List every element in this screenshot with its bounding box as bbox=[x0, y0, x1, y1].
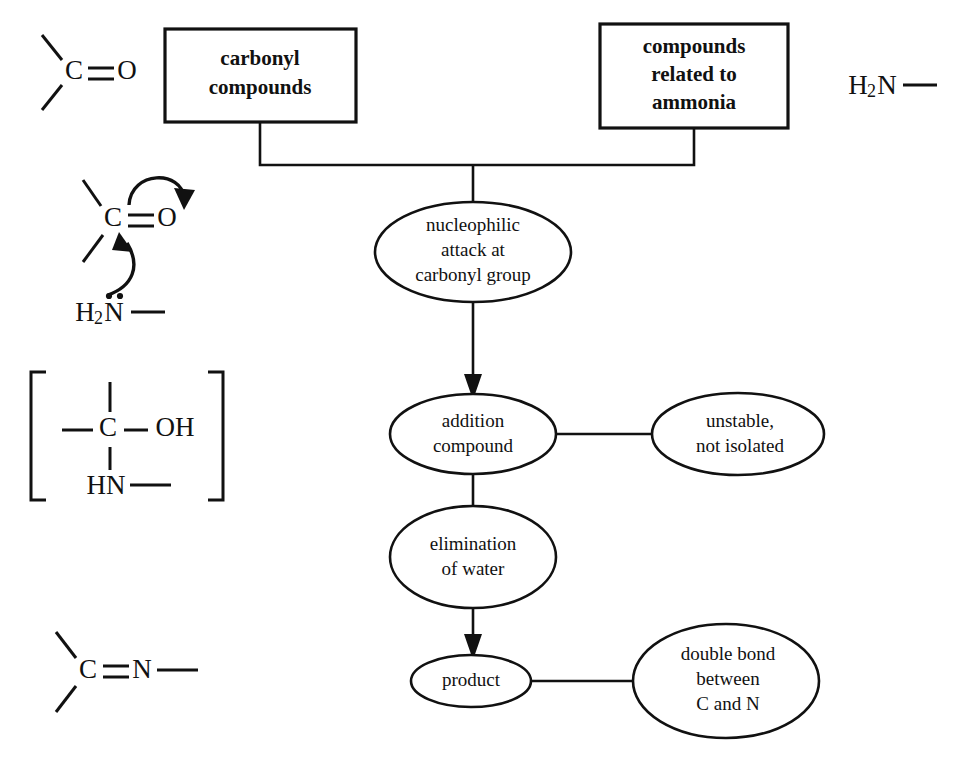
elimination-of-water-ellipse[interactable] bbox=[390, 506, 556, 608]
node-nucleophilic-attack[interactable]: nucleophilic attack at carbonyl group bbox=[375, 202, 571, 302]
carbonyl-atom-c: C bbox=[65, 55, 83, 85]
attack-atom-n: N bbox=[104, 297, 124, 327]
bracket-right-icon bbox=[208, 372, 223, 500]
addition-compound-label-line2: compound bbox=[433, 435, 514, 456]
unstable-label-line1: unstable, bbox=[706, 410, 774, 431]
carbonyl-compounds-label-line1: carbonyl bbox=[220, 46, 300, 70]
connector-elimination-to-product bbox=[464, 608, 482, 660]
reagent-amine-subscript: 2 bbox=[867, 81, 876, 101]
lone-pair-dot-right-icon bbox=[117, 293, 123, 299]
ammonia-label-line3: ammonia bbox=[652, 90, 737, 114]
reaction-scheme-svg: carbonyl compounds compounds related to … bbox=[0, 0, 964, 774]
structure-carbonyl: C O bbox=[42, 35, 137, 110]
connector-box-join-to-nucleophilic bbox=[260, 122, 694, 202]
nucleophilic-attack-label-line2: attack at bbox=[441, 239, 506, 260]
bracket-left-icon bbox=[31, 372, 46, 500]
node-product[interactable]: product bbox=[411, 655, 531, 707]
unstable-label-line2: not isolated bbox=[696, 435, 785, 456]
attack-atom-c: C bbox=[104, 202, 122, 232]
curved-arrow-nitrogen-head-icon bbox=[112, 232, 133, 252]
imine-atom-c: C bbox=[79, 654, 97, 684]
structure-nucleophilic-attack: C O H 2 N bbox=[75, 178, 195, 328]
attack-amine-h: H bbox=[75, 297, 95, 327]
double-bond-label-line1: double bond bbox=[681, 643, 776, 664]
structure-imine: C N bbox=[56, 632, 198, 712]
imine-bond-lower-left bbox=[56, 686, 76, 712]
double-bond-label-line3: C and N bbox=[696, 693, 760, 714]
node-carbonyl-compounds[interactable]: carbonyl compounds bbox=[165, 29, 356, 122]
intermediate-group-oh: OH bbox=[156, 412, 195, 442]
product-label: product bbox=[442, 669, 501, 690]
double-bond-label-line2: between bbox=[696, 668, 760, 689]
reagent-atom-n: N bbox=[877, 70, 897, 100]
node-double-bond-c-n[interactable]: double bond between C and N bbox=[633, 624, 819, 738]
lone-pair-dot-left-icon bbox=[106, 293, 112, 299]
attack-bond-lower-left bbox=[83, 235, 103, 262]
ammonia-label-line2: related to bbox=[651, 62, 736, 86]
elimination-label-line2: of water bbox=[442, 558, 505, 579]
addition-compound-label-line1: addition bbox=[442, 410, 505, 431]
node-addition-compound[interactable]: addition compound bbox=[390, 394, 556, 474]
unstable-not-isolated-ellipse[interactable] bbox=[652, 393, 824, 475]
curved-arrow-pi-head-icon bbox=[174, 188, 195, 210]
addition-compound-ellipse[interactable] bbox=[390, 394, 556, 474]
carbonyl-compounds-label-line2: compounds bbox=[209, 75, 312, 99]
node-compounds-related-to-ammonia[interactable]: compounds related to ammonia bbox=[600, 24, 788, 128]
carbonyl-bond-upper-left bbox=[42, 35, 62, 60]
attack-atom-o: O bbox=[157, 202, 177, 232]
structure-addition-intermediate: C OH HN bbox=[31, 372, 223, 500]
diagram-canvas: carbonyl compounds compounds related to … bbox=[0, 0, 964, 774]
nucleophilic-attack-label-line3: carbonyl group bbox=[415, 264, 531, 285]
nucleophilic-attack-label-line1: nucleophilic bbox=[426, 214, 520, 235]
reagent-amine-h: H bbox=[848, 70, 868, 100]
node-elimination-of-water[interactable]: elimination of water bbox=[390, 506, 556, 608]
imine-atom-n: N bbox=[132, 654, 152, 684]
imine-bond-upper-left bbox=[56, 632, 76, 658]
connector-nucleophilic-to-addition bbox=[464, 302, 482, 400]
carbonyl-bond-lower-left bbox=[42, 85, 62, 110]
elimination-label-line1: elimination bbox=[430, 533, 517, 554]
attack-bond-upper-left bbox=[83, 180, 101, 206]
carbonyl-atom-o: O bbox=[117, 55, 137, 85]
ammonia-label-line1: compounds bbox=[643, 34, 746, 58]
node-unstable-not-isolated[interactable]: unstable, not isolated bbox=[652, 393, 824, 475]
attack-amine-subscript: 2 bbox=[94, 308, 103, 328]
structure-amine-reagent: H 2 N bbox=[848, 70, 937, 101]
intermediate-atom-c: C bbox=[99, 412, 117, 442]
intermediate-group-hn: HN bbox=[87, 470, 126, 500]
